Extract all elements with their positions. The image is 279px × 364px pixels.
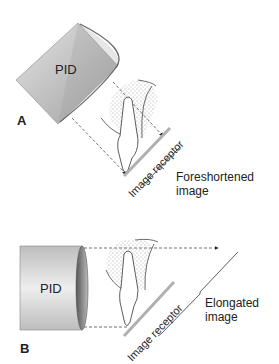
panel-a: PID Image receptor Foreshortened image A [16,18,254,200]
pid-cylinder-b: PID [20,246,88,330]
receptor-label-b: Image receptor [125,302,185,364]
panel-b: PID Image receptor Elongated image B [20,239,259,363]
pid-label-b: PID [40,281,62,296]
pid-cylinder-a: PID [16,18,124,124]
panel-letter-b: B [20,341,29,356]
panel-letter-a: A [17,113,27,128]
result-label-b-line2: image [205,310,238,324]
result-label-a-line1: Foreshortened [176,170,254,184]
result-label-b-line1: Elongated [205,296,259,310]
pid-label-a: PID [55,62,77,77]
radiograph-angulation-diagram: PID Image receptor Foreshortened image A… [0,0,279,364]
result-label-a-line2: image [176,184,209,198]
